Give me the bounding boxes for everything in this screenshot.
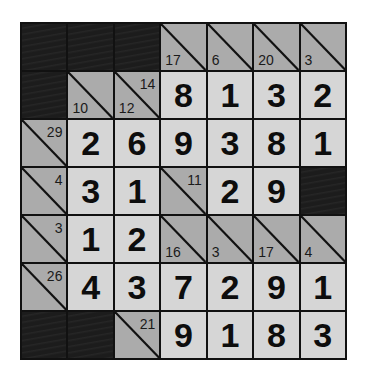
entry-cell[interactable]: 4 (68, 264, 112, 310)
entry-cell[interactable]: 6 (115, 120, 159, 166)
clue-cell: 29 (22, 120, 66, 166)
down-clue: 12 (119, 100, 135, 116)
down-clue: 10 (72, 100, 88, 116)
across-clue: 26 (47, 268, 63, 284)
entry-cell[interactable]: 3 (208, 120, 252, 166)
cell-value: 2 (220, 270, 239, 304)
cell-value: 9 (174, 318, 193, 352)
clue-cell: 1214 (115, 72, 159, 118)
entry-cell[interactable]: 8 (254, 312, 298, 358)
across-clue: 29 (47, 124, 63, 140)
down-clue: 4 (305, 244, 313, 260)
cell-value: 3 (313, 318, 332, 352)
down-clue: 16 (165, 244, 181, 260)
across-clue: 4 (55, 172, 63, 188)
blocked-cell (68, 24, 112, 70)
entry-cell[interactable]: 9 (254, 264, 298, 310)
entry-cell[interactable]: 8 (254, 120, 298, 166)
entry-cell[interactable]: 3 (115, 264, 159, 310)
cell-value: 9 (174, 126, 193, 160)
clue-cell: 17 (161, 24, 205, 70)
clue-cell: 20 (254, 24, 298, 70)
entry-cell[interactable]: 1 (115, 168, 159, 214)
cell-value: 1 (313, 126, 332, 160)
entry-cell[interactable]: 9 (161, 312, 205, 358)
entry-cell[interactable]: 9 (254, 168, 298, 214)
clue-cell: 3 (22, 216, 66, 262)
cell-value: 9 (267, 174, 286, 208)
cell-value: 3 (267, 78, 286, 112)
entry-cell[interactable]: 1 (301, 264, 345, 310)
down-clue: 17 (165, 52, 181, 68)
across-clue: 3 (55, 220, 63, 236)
across-clue: 11 (187, 172, 202, 188)
clue-cell: 4 (22, 168, 66, 214)
clue-cell: 16 (161, 216, 205, 262)
entry-cell[interactable]: 1 (208, 72, 252, 118)
down-clue: 6 (212, 52, 220, 68)
entry-cell[interactable]: 2 (208, 168, 252, 214)
entry-cell[interactable]: 3 (301, 312, 345, 358)
blocked-cell (22, 24, 66, 70)
cell-value: 4 (81, 270, 100, 304)
entry-cell[interactable]: 2 (115, 216, 159, 262)
clue-cell: 11 (161, 168, 205, 214)
cell-value: 2 (313, 78, 332, 112)
cell-value: 1 (220, 318, 239, 352)
cell-value: 6 (128, 126, 147, 160)
clue-cell: 3 (208, 216, 252, 262)
cell-value: 8 (267, 318, 286, 352)
cell-value: 3 (128, 270, 147, 304)
clue-cell: 10 (68, 72, 112, 118)
clue-cell: 26 (22, 264, 66, 310)
cell-value: 2 (81, 126, 100, 160)
entry-cell[interactable]: 3 (68, 168, 112, 214)
entry-cell[interactable]: 8 (161, 72, 205, 118)
clue-cell: 4 (301, 216, 345, 262)
cell-value: 1 (220, 78, 239, 112)
clue-cell: 17 (254, 216, 298, 262)
cell-value: 7 (174, 270, 193, 304)
cell-value: 1 (313, 270, 332, 304)
cell-value: 1 (128, 174, 147, 208)
kakuro-board: 1762031012148132292693814311129312163174… (20, 22, 347, 360)
across-clue: 21 (140, 316, 156, 332)
clue-cell: 3 (301, 24, 345, 70)
blocked-cell (22, 312, 66, 358)
down-clue: 20 (258, 52, 274, 68)
down-clue: 3 (305, 52, 313, 68)
clue-cell: 21 (115, 312, 159, 358)
entry-cell[interactable]: 1 (68, 216, 112, 262)
cell-value: 2 (220, 174, 239, 208)
across-clue: 14 (140, 76, 156, 92)
entry-cell[interactable]: 7 (161, 264, 205, 310)
entry-cell[interactable]: 9 (161, 120, 205, 166)
cell-value: 8 (174, 78, 193, 112)
blocked-cell (301, 168, 345, 214)
cell-value: 9 (267, 270, 286, 304)
blocked-cell (115, 24, 159, 70)
clue-cell: 6 (208, 24, 252, 70)
cell-value: 2 (128, 222, 147, 256)
entry-cell[interactable]: 1 (301, 120, 345, 166)
cell-value: 3 (81, 174, 100, 208)
blocked-cell (68, 312, 112, 358)
cell-value: 8 (267, 126, 286, 160)
down-clue: 3 (212, 244, 220, 260)
entry-cell[interactable]: 2 (208, 264, 252, 310)
cell-value: 3 (220, 126, 239, 160)
entry-cell[interactable]: 1 (208, 312, 252, 358)
entry-cell[interactable]: 3 (254, 72, 298, 118)
cell-value: 1 (81, 222, 100, 256)
entry-cell[interactable]: 2 (301, 72, 345, 118)
entry-cell[interactable]: 2 (68, 120, 112, 166)
blocked-cell (22, 72, 66, 118)
down-clue: 17 (258, 244, 274, 260)
